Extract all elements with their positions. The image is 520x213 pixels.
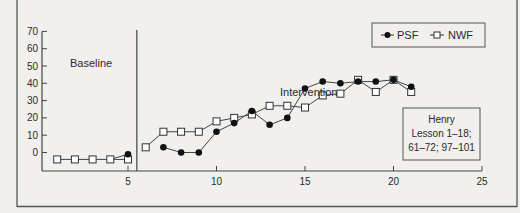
x-tick-label: 10 [211, 176, 223, 187]
psf-data-point [319, 78, 326, 85]
nwf-data-point [89, 156, 96, 163]
psf-data-point [125, 151, 132, 158]
note-line-1: Henry [428, 114, 455, 125]
y-tick-label: 0 [32, 147, 38, 158]
legend: PSF NWF [372, 23, 485, 47]
nwf-data-point [195, 128, 202, 135]
y-tick-label: 50 [27, 61, 39, 72]
y-tick-label: 70 [27, 26, 39, 37]
psf-data-point [213, 128, 220, 135]
psf-data-point [284, 115, 291, 122]
student-note-box: Henry Lesson 1–18; 61–72; 97–101 [403, 108, 480, 160]
nwf-data-point [71, 156, 78, 163]
nwf-data-point [107, 156, 114, 163]
y-tick-label: 30 [27, 95, 39, 106]
legend-item-nwf: NWF [430, 29, 473, 41]
nwf-data-point [213, 118, 220, 125]
y-tick-label: 40 [27, 78, 39, 89]
x-tick-label: 25 [476, 176, 488, 187]
nwf-data-point [372, 88, 379, 95]
nwf-data-point [178, 128, 185, 135]
psf-data-point [266, 122, 273, 129]
psf-data-point [249, 108, 256, 115]
open-square-marker-icon [434, 32, 440, 38]
psf-data-point [337, 80, 344, 87]
psf-data-point [196, 149, 203, 156]
psf-data-point [178, 149, 185, 156]
psf-data-point [373, 78, 380, 85]
nwf-data-point [160, 128, 167, 135]
nwf-data-point [142, 144, 149, 151]
nwf-data-point [337, 90, 344, 97]
note-line-3: 61–72; 97–101 [408, 142, 475, 153]
x-tick-label: 15 [299, 176, 311, 187]
x-tick-label: 20 [388, 176, 400, 187]
series-nwf [54, 76, 415, 163]
x-tick-label: 5 [125, 176, 131, 187]
intervention-label: Intervention [280, 86, 337, 98]
nwf-data-point [284, 102, 291, 109]
note-line-2: Lesson 1–18; [411, 128, 471, 139]
legend-item-psf: PSF [381, 29, 419, 41]
psf-data-point [355, 78, 362, 85]
y-tick-label: 60 [27, 43, 39, 54]
psf-data-point [408, 83, 415, 90]
line-chart: 010203040506070510152025 Baseline Interv… [0, 0, 520, 213]
y-tick-label: 20 [27, 112, 39, 123]
psf-data-point [231, 120, 238, 127]
filled-circle-marker-icon [385, 32, 391, 38]
nwf-data-point [54, 156, 61, 163]
psf-data-point [160, 144, 167, 151]
y-tick-label: 10 [27, 130, 39, 141]
legend-label-nwf: NWF [448, 29, 473, 41]
legend-label-psf: PSF [397, 29, 419, 41]
baseline-label: Baseline [70, 57, 112, 69]
nwf-data-point [266, 102, 273, 109]
nwf-data-point [302, 104, 309, 111]
psf-data-point [390, 77, 397, 84]
series-layer [54, 76, 415, 163]
